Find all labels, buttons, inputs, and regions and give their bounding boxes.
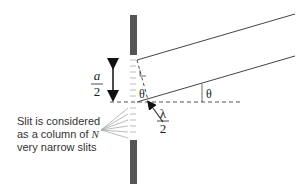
half-width-label: a 2: [91, 68, 103, 99]
caption-pointer-lines: [101, 108, 128, 138]
angle-label-outer: θ: [206, 87, 212, 101]
angle-label-inner: θ: [139, 87, 145, 101]
svg-text:λ: λ: [160, 106, 167, 121]
caption-line-3: very narrow slits: [17, 141, 100, 154]
barrier-bottom: [130, 140, 137, 184]
slit-sources: [130, 60, 136, 132]
caption-line-1: Slit is considered: [17, 115, 100, 128]
path-difference-label: λ 2: [157, 106, 169, 136]
caption-line-2: as a column of N: [17, 128, 100, 141]
svg-text:2: 2: [160, 121, 167, 136]
svg-text:2: 2: [94, 84, 101, 99]
barrier-top: [130, 15, 137, 55]
ray-bottom: [137, 56, 295, 102]
slit-caption: Slit is considered as a column of N very…: [17, 115, 100, 154]
diffraction-diagram: a 2 θ θ λ 2: [0, 0, 307, 194]
svg-text:a: a: [94, 68, 101, 83]
ray-top: [137, 14, 295, 60]
